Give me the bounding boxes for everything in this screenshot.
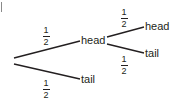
denominator: 2 — [43, 38, 48, 47]
probability-root-head: 1 2 — [41, 26, 51, 47]
denominator: 2 — [43, 91, 48, 100]
branch-root-to-tail — [14, 64, 80, 79]
probability-head-head: 1 2 — [119, 8, 129, 29]
probability-head-tail: 1 2 — [119, 55, 129, 76]
outcome-tail-level2: tail — [145, 48, 159, 59]
numerator: 1 — [121, 8, 126, 17]
probability-root-tail: 1 2 — [41, 79, 51, 100]
numerator: 1 — [43, 26, 48, 35]
outcome-head-level1: head — [81, 35, 105, 46]
denominator: 2 — [121, 67, 126, 76]
branch-head-to-tail — [107, 44, 144, 53]
outcome-head-level2: head — [145, 21, 169, 32]
numerator: 1 — [43, 79, 48, 88]
probability-tree-diagram: 1 2 head 1 2 tail 1 2 head 1 2 tail — [0, 0, 177, 100]
numerator: 1 — [121, 55, 126, 64]
outcome-tail-level1: tail — [81, 74, 95, 85]
denominator: 2 — [121, 20, 126, 29]
